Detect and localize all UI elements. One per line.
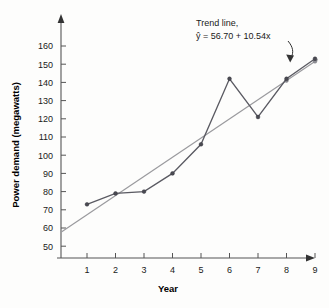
data-point-marker bbox=[142, 190, 146, 194]
data-point-marker bbox=[85, 202, 89, 206]
data-point-marker bbox=[256, 115, 260, 119]
y-tick-label: 80 bbox=[43, 187, 53, 197]
annotation-arrow-head-icon bbox=[286, 55, 294, 63]
y-tick-label: 50 bbox=[43, 242, 53, 252]
y-tick-label: 150 bbox=[38, 60, 53, 70]
data-point-marker bbox=[285, 77, 289, 81]
axis-group bbox=[57, 14, 315, 261]
y-tick-label: 160 bbox=[38, 41, 53, 51]
power-demand-series bbox=[85, 57, 317, 206]
data-line-path bbox=[87, 59, 315, 205]
y-tick-label: 70 bbox=[43, 205, 53, 215]
trend-line-path bbox=[61, 59, 318, 232]
x-tick-label: 3 bbox=[141, 265, 146, 275]
arrow-up-icon bbox=[58, 14, 65, 23]
data-point-marker bbox=[228, 77, 232, 81]
power-demand-trend-chart: 5060708090100110120130140150160 12345678… bbox=[0, 0, 329, 308]
x-tick-label: 7 bbox=[255, 265, 260, 275]
data-point-marker bbox=[114, 192, 118, 196]
x-tick-label: 8 bbox=[284, 265, 289, 275]
arrow-right-icon bbox=[306, 255, 315, 262]
data-point-markers bbox=[85, 57, 317, 206]
annotation-line-2: ŷ = 56.70 + 10.54x bbox=[196, 31, 271, 41]
y-axis-title: Power demand (megawatts) bbox=[10, 82, 21, 208]
x-tick-label: 6 bbox=[227, 265, 232, 275]
annotation-equation-variable: x bbox=[266, 31, 271, 41]
y-tick-label: 90 bbox=[43, 169, 53, 179]
trend-line-series bbox=[61, 59, 318, 232]
data-point-marker bbox=[313, 57, 317, 61]
trend-line-annotation: Trend line, ŷ = 56.70 + 10.54x bbox=[196, 18, 294, 63]
chart-figure: 5060708090100110120130140150160 12345678… bbox=[0, 0, 329, 308]
data-point-marker bbox=[199, 142, 203, 146]
x-tick-label: 2 bbox=[113, 265, 118, 275]
x-tick-label: 5 bbox=[198, 265, 203, 275]
y-axis-ticks: 5060708090100110120130140150160 bbox=[38, 41, 66, 251]
y-tick-label: 60 bbox=[43, 223, 53, 233]
x-axis-ticks: 123456789 bbox=[84, 253, 317, 275]
annotation-line-1: Trend line, bbox=[196, 18, 238, 28]
y-tick-label: 120 bbox=[38, 114, 53, 124]
y-tick-label: 100 bbox=[38, 151, 53, 161]
y-tick-label: 140 bbox=[38, 78, 53, 88]
x-axis-title: Year bbox=[158, 283, 178, 294]
x-tick-label: 9 bbox=[312, 265, 317, 275]
y-tick-label: 130 bbox=[38, 96, 53, 106]
data-point-marker bbox=[171, 172, 175, 176]
x-tick-label: 1 bbox=[84, 265, 89, 275]
y-tick-label: 110 bbox=[39, 132, 53, 142]
annotation-equation-prefix: ŷ = 56.70 + 10.54 bbox=[196, 31, 266, 41]
x-tick-label: 4 bbox=[170, 265, 175, 275]
